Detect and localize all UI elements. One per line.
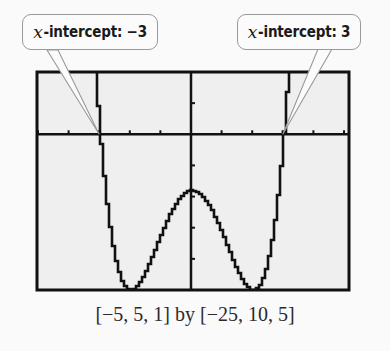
callout-text: -intercept: −3: [44, 23, 147, 41]
callout-x-intercept-positive: x -intercept: 3: [237, 14, 361, 50]
calculator-graph: [0, 0, 390, 351]
callout-variable: x: [33, 22, 42, 42]
callout-variable: x: [248, 22, 257, 42]
callout-x-intercept-negative: x -intercept: −3: [22, 14, 158, 50]
window-caption: [−5, 5, 1] by [−25, 10, 5]: [0, 303, 390, 326]
callout-text: -intercept: 3: [258, 23, 350, 41]
